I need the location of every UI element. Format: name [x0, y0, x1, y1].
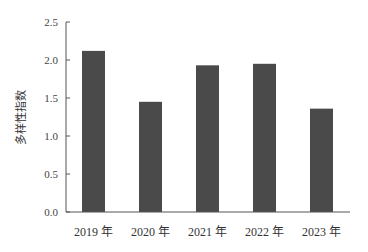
- bar: [253, 64, 276, 212]
- x-category-label: 2022 年: [245, 225, 284, 239]
- bar: [310, 109, 333, 212]
- bars: [82, 51, 333, 212]
- x-category-label: 2021 年: [188, 225, 227, 239]
- y-tick-label: 1.5: [44, 92, 58, 104]
- y-tick-label: 1.0: [44, 130, 58, 142]
- y-tick-label: 0.5: [44, 168, 58, 180]
- y-axis-title: 多样性指数: [14, 90, 28, 145]
- y-tick-label: 2.0: [44, 54, 58, 66]
- y-tick-label: 0.0: [44, 206, 58, 218]
- x-category-label: 2019 年: [74, 225, 113, 239]
- bar: [139, 102, 162, 212]
- y-tick-label: 2.5: [44, 16, 58, 28]
- x-category-label: 2023 年: [302, 225, 341, 239]
- x-category-label: 2020 年: [131, 225, 170, 239]
- x-axis-labels: 2019 年2020 年2021 年2022 年2023 年: [74, 225, 341, 239]
- bar: [82, 51, 105, 212]
- bar-chart: 0.00.51.01.52.02.5 2019 年2020 年2021 年202…: [0, 0, 368, 252]
- bar: [196, 65, 219, 212]
